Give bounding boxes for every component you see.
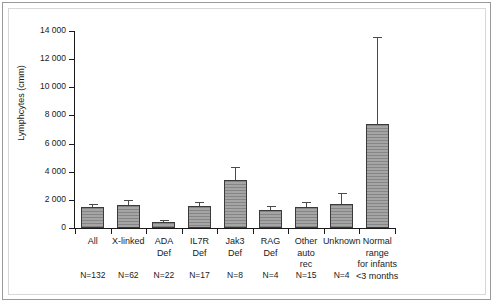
- error-bar-cap: [124, 200, 133, 201]
- x-axis-tick-mark: [288, 229, 289, 234]
- y-axis-tick-label: 2 000: [45, 195, 66, 204]
- x-axis-category-label: Normalrangefor infants<3 months: [353, 236, 401, 282]
- y-axis-tick-labels: 14 00012 00010 0008 0006 0004 0002 0000: [22, 0, 66, 307]
- y-axis-tick-label: 12 000: [40, 54, 66, 63]
- bar[interactable]: [295, 207, 318, 228]
- bar[interactable]: [117, 205, 140, 228]
- y-axis-tick-label: 8 000: [45, 110, 66, 119]
- x-axis-tick-mark: [146, 229, 147, 234]
- error-bar-stem: [199, 203, 200, 206]
- x-axis-line: [74, 228, 396, 229]
- error-bar-cap: [338, 193, 347, 194]
- x-axis-category-label-line: for infants: [353, 259, 401, 271]
- bar-group[interactable]: [81, 31, 104, 228]
- bar-group[interactable]: [188, 31, 211, 228]
- x-axis-category-label-line: range: [353, 248, 401, 260]
- x-axis-tick-mark: [182, 229, 183, 234]
- bar-group[interactable]: [152, 31, 175, 228]
- error-bar-stem: [163, 221, 164, 222]
- error-bar-cap: [160, 220, 169, 221]
- bar[interactable]: [224, 180, 247, 228]
- figure-container: Lymphcytes (cmm) 14 00012 00010 0008 000…: [0, 0, 497, 307]
- bar[interactable]: [259, 210, 282, 228]
- bar-group[interactable]: [295, 31, 318, 228]
- error-bar-cap: [195, 202, 204, 203]
- bar[interactable]: [81, 207, 104, 228]
- bar[interactable]: [188, 206, 211, 228]
- y-axis-tick-label: 14 000: [40, 26, 66, 35]
- error-bar-stem: [128, 201, 129, 205]
- bar[interactable]: [152, 222, 175, 228]
- error-bar-stem: [306, 203, 307, 207]
- error-bar-cap: [89, 204, 98, 205]
- error-bar-cap: [231, 167, 240, 168]
- x-axis-tick-mark: [253, 229, 254, 234]
- x-axis-tick-mark: [395, 229, 396, 234]
- x-axis-category-label-line: auto: [282, 248, 330, 260]
- bar[interactable]: [330, 204, 353, 228]
- y-axis-tick-label: 4 000: [45, 167, 66, 176]
- bar-group[interactable]: [366, 31, 389, 228]
- bar-group[interactable]: [224, 31, 247, 228]
- x-axis-tick-mark: [111, 229, 112, 234]
- bar[interactable]: [366, 124, 389, 228]
- error-bar-stem: [270, 207, 271, 210]
- x-axis-category-label-line: rec: [282, 259, 330, 271]
- error-bar-stem: [92, 205, 93, 207]
- y-axis-tick-label: 10 000: [40, 82, 66, 91]
- x-axis-tick-mark: [359, 229, 360, 234]
- error-bar-stem: [235, 168, 236, 180]
- bar-group[interactable]: [330, 31, 353, 228]
- x-axis-category-label-line: <3 months: [353, 271, 401, 283]
- plot-area: [75, 31, 395, 228]
- error-bar-cap: [267, 206, 276, 207]
- error-bar-stem: [341, 194, 342, 204]
- y-axis-tick-label: 0: [61, 223, 66, 232]
- x-axis-tick-mark: [75, 229, 76, 234]
- bar-group[interactable]: [259, 31, 282, 228]
- error-bar-cap: [373, 37, 382, 38]
- bar-group[interactable]: [117, 31, 140, 228]
- y-axis-tick-label: 6 000: [45, 139, 66, 148]
- error-bar-cap: [302, 202, 311, 203]
- x-axis-tick-mark: [324, 229, 325, 234]
- x-axis-tick-mark: [217, 229, 218, 234]
- x-axis-category-label-line: Normal: [353, 236, 401, 248]
- error-bar-stem: [377, 38, 378, 124]
